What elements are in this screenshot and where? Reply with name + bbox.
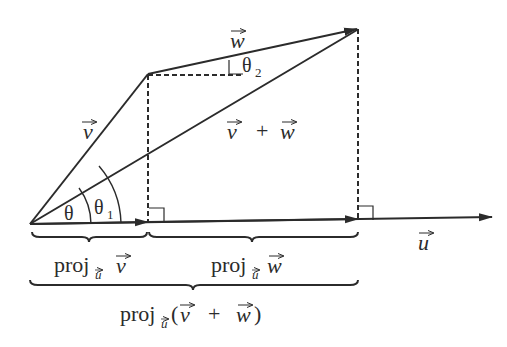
- svg-text:1: 1: [107, 207, 114, 222]
- dashed-guides: [148, 29, 358, 222]
- label-w: w: [230, 28, 245, 53]
- label-theta2: θ 2: [242, 54, 262, 80]
- svg-text:): ): [254, 301, 261, 326]
- svg-text:u: u: [252, 267, 259, 282]
- vector-w: [148, 29, 357, 74]
- vector-v: [30, 74, 148, 224]
- svg-text:w: w: [236, 302, 251, 327]
- label-proj-vw: proj u ( v + w ): [120, 301, 261, 331]
- svg-text:θ: θ: [94, 196, 104, 218]
- svg-text:w: w: [267, 253, 282, 278]
- svg-text:v: v: [227, 119, 237, 144]
- svg-text:+: +: [208, 301, 220, 326]
- svg-text:u: u: [161, 316, 168, 331]
- svg-text:proj: proj: [211, 252, 246, 277]
- svg-text:v: v: [83, 119, 93, 144]
- label-proj-w: proj u w: [211, 252, 283, 282]
- brace-proj-w: [149, 232, 358, 242]
- brace-proj-v: [32, 232, 147, 242]
- svg-text:u: u: [418, 230, 429, 255]
- right-angle-theta2: [229, 60, 243, 74]
- label-theta1: θ 1: [94, 196, 114, 222]
- svg-text:v: v: [180, 302, 190, 327]
- vector-projection-figure: v w v + w u θ θ 1 θ 2 proj u v pr: [0, 0, 507, 347]
- svg-text:u: u: [95, 267, 102, 282]
- svg-text:w: w: [230, 28, 245, 53]
- label-proj-v: proj u v: [54, 252, 130, 282]
- svg-text:θ: θ: [242, 54, 252, 76]
- right-angle-v: [149, 208, 164, 222]
- svg-text:w: w: [280, 119, 295, 144]
- svg-text:+: +: [256, 118, 268, 143]
- label-u: u: [418, 230, 433, 255]
- svg-text:v: v: [116, 253, 126, 278]
- svg-text:proj: proj: [120, 301, 155, 326]
- svg-text:(: (: [171, 301, 178, 326]
- brace-proj-vw: [30, 280, 358, 290]
- svg-text:2: 2: [255, 65, 262, 80]
- vector-v-plus-w: [30, 30, 357, 224]
- proj-v-arrow: [30, 222, 148, 224]
- label-v-plus-w: v + w: [227, 118, 296, 144]
- label-theta: θ: [64, 202, 74, 224]
- label-v: v: [82, 119, 96, 144]
- svg-text:proj: proj: [54, 252, 89, 277]
- svg-text:θ: θ: [64, 202, 74, 224]
